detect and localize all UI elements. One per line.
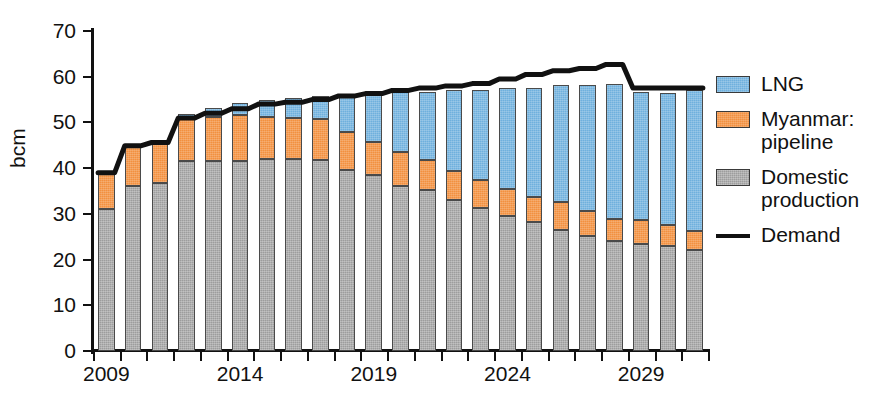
x-axis-tick-label: 2024	[467, 363, 547, 384]
bar-segment-lng	[285, 98, 302, 118]
x-axis-tick	[601, 352, 603, 361]
legend-item-label: Myanmar: pipeline	[761, 107, 884, 154]
bar-2026	[553, 31, 570, 351]
y-axis-tick	[83, 121, 92, 123]
bar-segment-myanmar-pipeline	[152, 143, 169, 183]
legend-color-swatch	[716, 169, 750, 186]
bar-segment-lng	[259, 100, 276, 117]
bar-2025	[526, 31, 543, 351]
bar-segment-myanmar-pipeline	[526, 197, 543, 222]
bar-segment-myanmar-pipeline	[98, 173, 115, 210]
y-axis-tick-label: 70	[30, 20, 76, 41]
bar-2028	[606, 31, 623, 351]
bar-segment-myanmar-pipeline	[606, 219, 623, 241]
x-axis-tick	[521, 352, 523, 361]
x-axis-tick	[307, 352, 309, 361]
bar-2015	[259, 31, 276, 351]
bar-segment-domestic-production	[526, 222, 543, 351]
y-axis-tick	[83, 30, 92, 32]
x-axis-tick	[280, 352, 282, 361]
x-axis-tick	[681, 352, 683, 361]
bar-segment-myanmar-pipeline	[259, 117, 276, 159]
legend-item-demand[interactable]: Demand	[716, 223, 884, 247]
bar-segment-lng	[392, 92, 409, 151]
bar-segment-lng	[526, 88, 543, 198]
bar-segment-lng	[579, 85, 596, 211]
bar-2017	[312, 31, 329, 351]
bar-segment-lng	[178, 114, 195, 118]
x-axis-tick-label: 2019	[334, 363, 414, 384]
bar-2024	[499, 31, 516, 351]
bar-segment-lng	[606, 84, 623, 219]
bar-segment-myanmar-pipeline	[499, 189, 516, 216]
legend-line-swatch	[716, 227, 750, 244]
bar-segment-domestic-production	[259, 159, 276, 351]
bar-segment-myanmar-pipeline	[633, 220, 650, 244]
y-axis-tick-label: 60	[30, 66, 76, 87]
bar-segment-domestic-production	[365, 175, 382, 351]
bar-segment-lng	[472, 90, 489, 181]
gas-supply-demand-chart: bcm 010203040506070 20092014201920242029…	[0, 0, 887, 403]
x-axis-tick	[200, 352, 202, 361]
x-axis-tick	[574, 352, 576, 361]
bar-segment-domestic-production	[686, 250, 703, 351]
bar-segment-domestic-production	[98, 209, 115, 351]
bar-segment-domestic-production	[125, 186, 142, 351]
chart-legend: LNGMyanmar: pipelineDomestic productionD…	[716, 72, 884, 257]
x-axis-tick	[93, 352, 95, 361]
bar-segment-myanmar-pipeline	[365, 142, 382, 175]
bar-2021	[419, 31, 436, 351]
x-axis-tick	[708, 352, 710, 361]
y-axis-tick	[83, 259, 92, 261]
bar-segment-domestic-production	[446, 200, 463, 351]
bar-segment-domestic-production	[553, 230, 570, 351]
bar-segment-lng	[312, 96, 329, 119]
bar-segment-domestic-production	[499, 216, 516, 351]
y-axis-tick-label: 50	[30, 111, 76, 132]
bar-segment-myanmar-pipeline	[339, 132, 356, 170]
bar-segment-lng	[339, 95, 356, 132]
legend-color-swatch	[716, 76, 750, 93]
x-axis-tick	[120, 352, 122, 361]
legend-item-label: Domestic production	[761, 165, 884, 212]
bar-segment-myanmar-pipeline	[205, 117, 222, 161]
x-axis-tick	[146, 352, 148, 361]
bar-segment-myanmar-pipeline	[125, 146, 142, 187]
bar-segment-domestic-production	[472, 208, 489, 351]
y-axis-tick-label: 20	[30, 249, 76, 270]
bar-2009	[98, 31, 115, 351]
x-axis-tick	[548, 352, 550, 361]
y-axis-tick	[83, 350, 92, 352]
bar-segment-myanmar-pipeline	[553, 202, 570, 229]
bar-segment-lng	[152, 140, 169, 143]
bar-segment-domestic-production	[633, 244, 650, 351]
bar-segment-domestic-production	[579, 236, 596, 351]
y-axis-tick	[83, 304, 92, 306]
bar-segment-myanmar-pipeline	[232, 115, 249, 162]
bar-2022	[446, 31, 463, 351]
bar-2014	[232, 31, 249, 351]
bar-2012	[178, 31, 195, 351]
bar-2016	[285, 31, 302, 351]
bar-segment-domestic-production	[205, 161, 222, 351]
bar-2011	[152, 31, 169, 351]
y-axis-tick-label: 0	[30, 340, 76, 361]
bar-segment-domestic-production	[606, 241, 623, 351]
x-axis-tick-label: 2029	[601, 363, 681, 384]
bar-segment-domestic-production	[660, 246, 677, 351]
x-axis-tick	[628, 352, 630, 361]
x-axis-tick-label: 2014	[200, 363, 280, 384]
x-axis-tick	[227, 352, 229, 361]
legend-item-domestic-production[interactable]: Domestic production	[716, 165, 884, 212]
bar-segment-domestic-production	[419, 190, 436, 351]
x-axis-tick	[253, 352, 255, 361]
bar-segment-myanmar-pipeline	[472, 180, 489, 208]
bar-segment-myanmar-pipeline	[686, 231, 703, 250]
legend-item-myanmar-pipeline[interactable]: Myanmar: pipeline	[716, 107, 884, 154]
legend-item-label: Demand	[761, 223, 840, 247]
legend-item-lng[interactable]: LNG	[716, 72, 884, 96]
bar-2013	[205, 31, 222, 351]
plot-area	[93, 31, 708, 351]
bar-2031	[686, 31, 703, 351]
bar-segment-myanmar-pipeline	[579, 211, 596, 236]
